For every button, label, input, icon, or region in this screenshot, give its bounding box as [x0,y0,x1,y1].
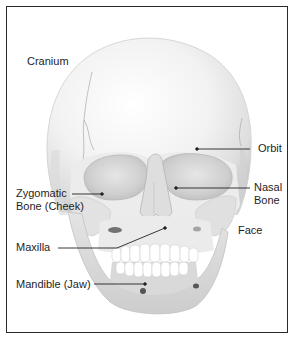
label-cranium: Cranium [27,55,69,68]
label-mandible: Mandible (Jaw) [16,278,91,291]
label-orbit: Orbit [258,142,282,155]
label-nasal-line1: Nasal [254,181,282,194]
label-zygomatic-line2: Bone (Cheek) [16,200,84,213]
label-face: Face [238,224,262,237]
label-nasal-line2: Bone [254,194,280,207]
label-maxilla: Maxilla [16,241,50,254]
left-orbit [84,155,147,200]
teeth [112,244,198,277]
label-zygomatic-line1: Zygomatic [16,187,67,200]
